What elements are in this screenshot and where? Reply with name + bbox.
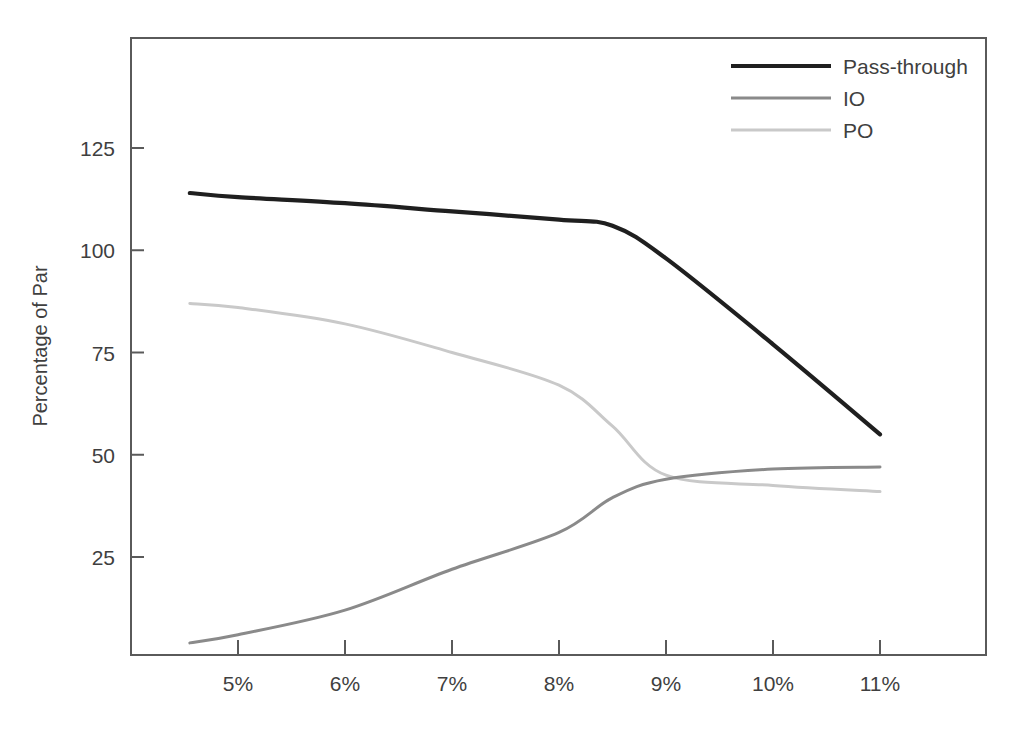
y-tick-label: 125 <box>80 137 115 160</box>
y-axis-title: Percentage of Par <box>29 265 51 427</box>
x-tick-label: 9% <box>651 672 681 695</box>
chart-figure: 125100755025 5%6%7%8%9%10%11% Percentage… <box>0 0 1024 732</box>
y-tick-label: 25 <box>92 546 115 569</box>
y-tick-label: 75 <box>92 342 115 365</box>
legend-label-io: IO <box>843 87 865 110</box>
x-tick-label: 5% <box>223 672 253 695</box>
legend-label-po: PO <box>843 119 873 142</box>
y-tick-label: 50 <box>92 444 115 467</box>
x-tick-label: 7% <box>437 672 467 695</box>
chart-background <box>0 0 1024 732</box>
x-tick-label: 10% <box>752 672 794 695</box>
x-tick-label: 8% <box>544 672 574 695</box>
y-tick-label: 100 <box>80 239 115 262</box>
x-tick-label: 6% <box>330 672 360 695</box>
x-tick-label: 11% <box>860 672 900 695</box>
legend-label-pass-through: Pass-through <box>843 55 968 78</box>
line-chart: 125100755025 5%6%7%8%9%10%11% Percentage… <box>0 0 1024 732</box>
